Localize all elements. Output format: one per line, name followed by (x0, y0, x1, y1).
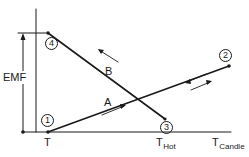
x-tick-t-candle-sub: Candle (219, 142, 244, 151)
x-tick-t-hot-main: T (156, 136, 163, 148)
x-tick-t: T (44, 137, 51, 148)
emf-arrowhead-icon (21, 33, 26, 40)
point-4-label: 4 (45, 37, 58, 50)
arrow-a-upper-head-icon (206, 80, 212, 85)
x-tick-t-candle-main: T (212, 136, 219, 148)
arrow-a-head-icon (120, 104, 126, 109)
point-3-label: 3 (160, 121, 173, 134)
point-1-dot (46, 130, 50, 134)
point-2-dot (227, 64, 231, 68)
x-tick-t-candle: TCandle (212, 137, 245, 148)
arrow-b-head-icon (98, 49, 104, 54)
point-2-label: 2 (219, 49, 232, 62)
point-1-label: 1 (41, 114, 54, 127)
curve-a-label: A (104, 97, 111, 108)
emf-base-dot (21, 130, 25, 134)
x-tick-t-main: T (44, 136, 51, 148)
x-tick-t-hot-sub: Hot (163, 142, 175, 151)
point-4-dot (46, 31, 50, 35)
x-tick-t-hot: THot (156, 137, 176, 148)
emf-axis-label: EMF (3, 71, 26, 84)
curve-b-label: B (105, 66, 112, 77)
thermocouple-emf-diagram (0, 0, 249, 157)
